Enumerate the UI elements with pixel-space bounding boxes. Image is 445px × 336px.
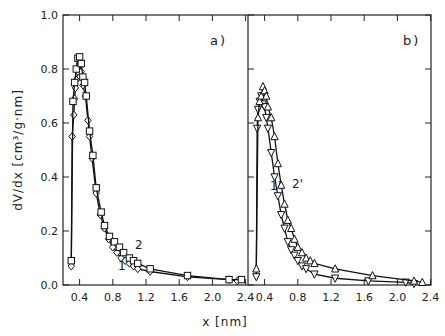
triangle-down-marker — [268, 150, 275, 157]
triangle-down-marker — [253, 274, 260, 281]
x-tick-label: 2.0 — [389, 291, 407, 304]
y-tick-label: 1.0 — [41, 9, 59, 22]
triangle-up-marker — [271, 133, 278, 140]
square-marker — [98, 209, 104, 215]
triangle-down-marker — [264, 125, 271, 132]
triangle-up-marker — [253, 265, 260, 272]
panel-label-a: a) — [210, 33, 227, 48]
square-marker — [86, 128, 92, 134]
diamond-marker — [71, 111, 77, 119]
triangle-up-marker — [281, 200, 288, 207]
square-marker — [81, 79, 87, 85]
chart: 0.00.20.40.60.81.00.40.81.21.62.02.40.40… — [0, 0, 445, 336]
square-marker — [184, 272, 190, 278]
y-axis-title: dV/dx [cm³/g·nm] — [11, 89, 25, 211]
x-axis-title: x [nm] — [202, 315, 248, 329]
x-tick-label: 0.8 — [104, 291, 122, 304]
triangle-up-marker — [274, 160, 281, 167]
square-marker — [135, 260, 141, 266]
triangle-up-marker — [291, 235, 298, 242]
triangle-down-marker — [303, 266, 310, 273]
triangle-down-marker — [284, 239, 291, 246]
square-marker — [226, 276, 232, 282]
x-tick-label: 1.6 — [170, 291, 188, 304]
y-tick-label: 0.6 — [41, 117, 59, 130]
triangle-up-marker — [254, 114, 261, 121]
data-curves — [68, 54, 426, 288]
x-tick-label: 2.4 — [237, 291, 255, 304]
square-marker — [238, 276, 244, 282]
y-tick-label: 0.8 — [41, 63, 59, 76]
square-marker — [83, 93, 89, 99]
y-tick-label: 0.0 — [41, 279, 59, 292]
x-tick-label: 2.0 — [204, 291, 222, 304]
axes: 0.00.20.40.60.81.00.40.81.21.62.02.40.40… — [41, 9, 440, 304]
curve-label-1: 1 — [118, 259, 126, 273]
triangle-down-marker — [281, 225, 288, 232]
x-tick-label: 0.4 — [256, 291, 274, 304]
square-marker — [147, 266, 153, 272]
square-marker — [70, 98, 76, 104]
triangle-down-marker — [274, 193, 281, 200]
x-tick-label: 0.8 — [289, 291, 307, 304]
y-tick-label: 0.2 — [41, 225, 59, 238]
x-tick-label: 1.6 — [355, 291, 373, 304]
square-marker — [71, 79, 77, 85]
series-2 — [68, 54, 245, 283]
panel-label-b: b) — [403, 33, 420, 48]
x-tick-label: 1.2 — [322, 291, 340, 304]
triangle-down-marker — [278, 212, 285, 219]
curve-label-2: 2 — [135, 238, 143, 252]
square-marker — [101, 222, 107, 228]
triangle-up-marker — [284, 216, 291, 223]
square-marker — [90, 152, 96, 158]
square-marker — [78, 60, 84, 66]
triangle-up-marker — [288, 224, 295, 231]
y-tick-label: 0.4 — [41, 171, 59, 184]
x-tick-label: 2.4 — [422, 291, 440, 304]
triangle-up-marker — [294, 243, 301, 250]
triangle-down-marker — [254, 125, 261, 132]
square-marker — [76, 54, 82, 60]
curve-label-2-prime: 2' — [292, 177, 303, 191]
x-tick-label: 0.4 — [71, 291, 89, 304]
square-marker — [68, 258, 74, 264]
x-tick-label: 1.2 — [137, 291, 155, 304]
curve-label-1-prime: 1' — [270, 179, 281, 193]
square-marker — [93, 185, 99, 191]
